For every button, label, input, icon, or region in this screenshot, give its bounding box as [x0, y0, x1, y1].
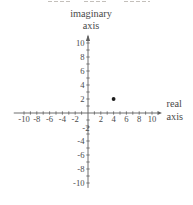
data-point [112, 97, 116, 101]
x-tick-label: 4 [111, 114, 116, 124]
y-tick-label: -6 [77, 150, 85, 160]
complex-plane-figure: -10-8-6-4-2246810108642-2-4-6-8-10imagin… [0, 0, 193, 205]
y-tick-label: 6 [80, 66, 85, 76]
complex-plane-chart: -10-8-6-4-2246810108642-2-4-6-8-10imagin… [0, 0, 193, 205]
x-tick-label: -4 [59, 114, 67, 124]
imaginary-axis-title: axis [83, 20, 100, 31]
y-tick-label: 2 [80, 94, 84, 104]
y-axis-arrowhead [86, 35, 90, 41]
x-tick-label: -10 [18, 114, 29, 124]
y-tick-label: 8 [80, 52, 84, 62]
x-tick-label: -6 [46, 114, 54, 124]
x-tick-label: 10 [148, 114, 157, 124]
x-tick-label: -8 [33, 114, 40, 124]
real-axis-title: real [167, 98, 183, 109]
x-axis-arrowhead [158, 111, 162, 115]
y-tick-label: -4 [77, 136, 85, 146]
y-tick-label: -2 [82, 123, 89, 133]
y-tick-label: 10 [76, 38, 85, 48]
y-tick-label: -8 [77, 164, 84, 174]
x-tick-label: -2 [72, 114, 79, 124]
imaginary-axis-title: imaginary [70, 8, 113, 19]
y-tick-label: 4 [80, 80, 85, 90]
y-tick-label: -10 [73, 178, 84, 188]
x-tick-label: 2 [99, 114, 103, 124]
x-tick-label: 8 [137, 114, 141, 124]
x-tick-label: 6 [124, 114, 129, 124]
real-axis-title: axis [167, 111, 184, 122]
